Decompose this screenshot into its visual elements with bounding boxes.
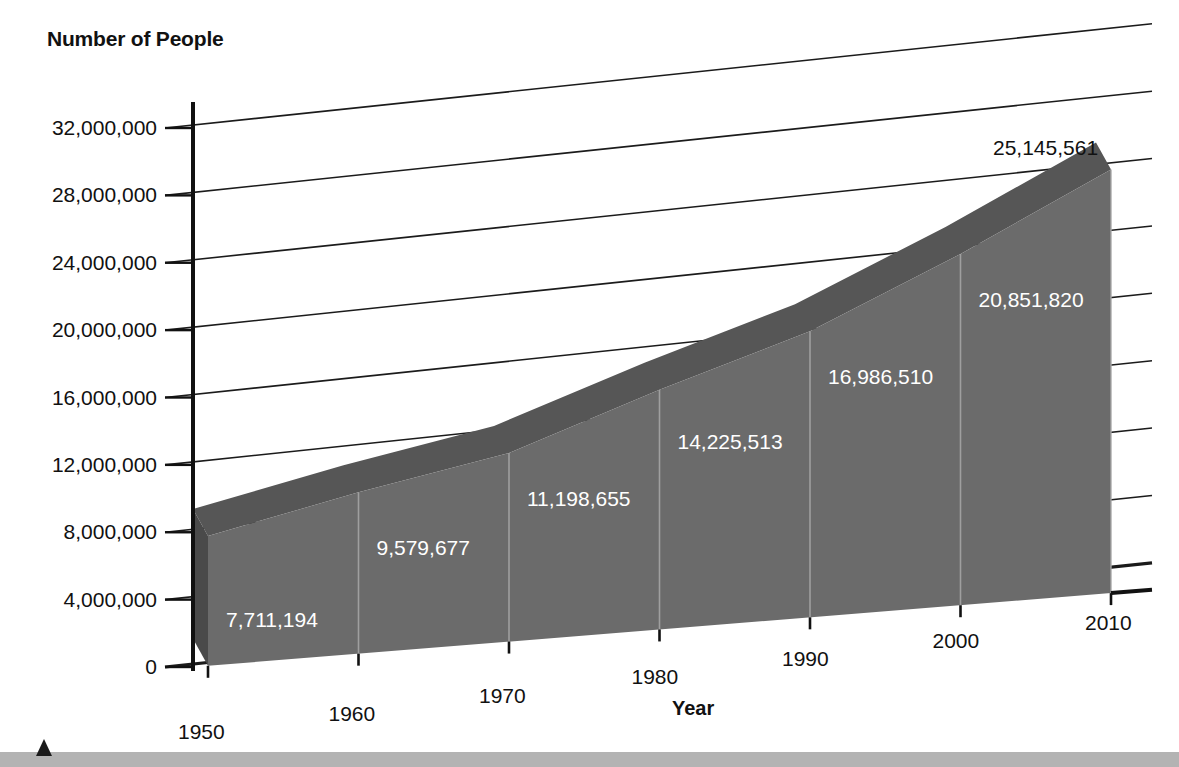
y-axis-label: 16,000,000 [52, 386, 157, 410]
area-series-3d [193, 143, 1111, 666]
x-axis-label-2000: 2000 [933, 629, 980, 653]
y-axis-label: 20,000,000 [52, 318, 157, 342]
chart-plot-area [0, 0, 1179, 767]
x-axis-label-1980: 1980 [632, 665, 679, 689]
value-label-1950: 7,711,194 [226, 608, 318, 632]
x-axis-label-2010: 2010 [1085, 611, 1132, 635]
x-axis-line-right [1111, 590, 1152, 593]
x-axis-label-1960: 1960 [329, 702, 376, 726]
value-label-2010: 25,145,561 [993, 136, 1098, 160]
gridline-32000000 [165, 24, 1152, 128]
value-label-2000: 20,851,820 [979, 288, 1084, 312]
y-axis-label: 12,000,000 [52, 453, 157, 477]
x-axis-label-1950: 1950 [178, 720, 225, 744]
y-axis-label: 28,000,000 [52, 183, 157, 207]
y-axis-label: 4,000,000 [64, 588, 157, 612]
value-label-1970: 11,198,655 [527, 487, 631, 511]
y-axis-label: 0 [145, 655, 157, 679]
chart-container: Number of People 04,000,0008,000,00012,0… [0, 0, 1179, 767]
footer-band [0, 752, 1179, 767]
area-left-side-face [193, 509, 208, 666]
value-label-1980: 14,225,513 [678, 430, 783, 454]
x-axis-label-1970: 1970 [479, 684, 526, 708]
y-axis-label: 32,000,000 [52, 116, 157, 140]
x-axis-title: Year [672, 697, 714, 720]
footer-triangle-marker [36, 739, 52, 756]
value-label-1960: 9,579,677 [377, 536, 470, 560]
y-axis-label: 24,000,000 [52, 251, 157, 275]
x-axis-label-1990: 1990 [782, 647, 829, 671]
value-label-1990: 16,986,510 [828, 365, 933, 389]
y-axis-label: 8,000,000 [64, 520, 157, 544]
